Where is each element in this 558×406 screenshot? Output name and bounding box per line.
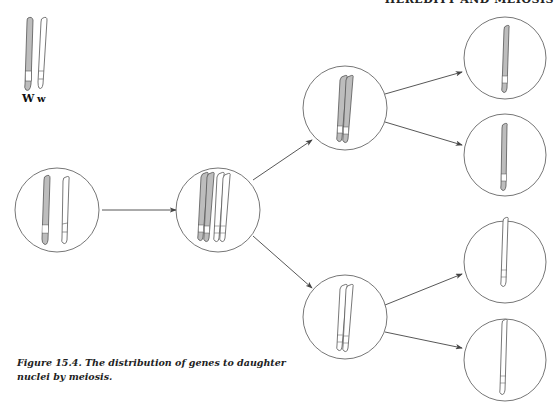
dyad-W-cell — [303, 66, 387, 150]
arrow-tetrad-to-dyad-w — [253, 236, 312, 288]
gamete-cell-3 — [464, 217, 546, 303]
arrow-dyad-W-to-gamete-1 — [385, 72, 462, 94]
gamete-cell-2 — [464, 114, 546, 196]
arrow-dyad-w-to-gamete-3 — [385, 274, 462, 305]
dyad-w-cell — [303, 275, 387, 359]
figure-caption: Figure 15.4. The distribution of genes t… — [17, 356, 317, 384]
legend-chromosomes — [25, 17, 47, 90]
parent-cell — [15, 168, 99, 252]
tetrad-cell — [176, 168, 260, 252]
allele-label-w: w — [37, 93, 46, 104]
allele-label-W: W — [22, 92, 34, 105]
arrow-dyad-w-to-gamete-4 — [385, 332, 462, 348]
arrow-tetrad-to-dyad-W — [253, 140, 312, 180]
gamete-cell-1 — [464, 17, 546, 99]
gamete-cell-4 — [464, 319, 546, 401]
arrows — [102, 72, 462, 348]
meiosis-diagram — [0, 0, 558, 406]
arrow-dyad-W-to-gamete-2 — [385, 122, 462, 145]
legend-chromosome-W — [25, 17, 33, 90]
legend-chromosome-w — [38, 17, 47, 88]
